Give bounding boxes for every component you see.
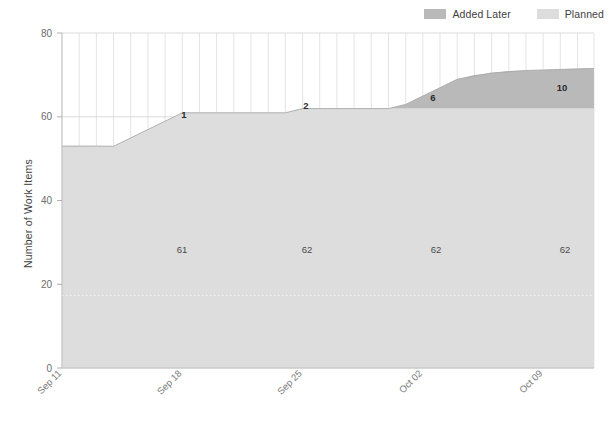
legend-item-planned[interactable]: Planned [537,8,604,20]
legend-item-added-later[interactable]: Added Later [424,8,510,20]
data-label-planned-62-b: 62 [431,244,442,255]
chart-legend: Added Later Planned [424,8,604,20]
legend-swatch-added-later [424,9,446,19]
data-label-planned-62-a: 62 [302,244,313,255]
data-label-added-later-2: 2 [303,100,308,111]
data-label-added-later-10: 10 [557,82,568,93]
chart-canvas: 80 60 40 20 0 Sep 11 Sep 18 Sep 25 Oct 0… [0,0,614,429]
y-tick-label-40: 40 [41,195,53,206]
y-tick-label-80: 80 [41,28,53,39]
legend-swatch-planned [537,9,559,19]
x-tick-label-oct-02: Oct 02 [397,368,425,396]
legend-label-planned: Planned [565,8,604,20]
data-label-planned-61: 61 [177,244,188,255]
x-tick-label-oct-09: Oct 09 [517,368,545,396]
x-tick-label-sep-18: Sep 18 [155,368,184,397]
data-label-added-later-6: 6 [430,92,435,103]
burnup-area-chart: 80 60 40 20 0 Sep 11 Sep 18 Sep 25 Oct 0… [0,0,614,429]
y-axis-title: Number of Work Items [22,159,34,268]
data-label-planned-62-c: 62 [560,244,571,255]
data-label-added-later-1: 1 [181,109,187,120]
series-area-planned [62,109,594,368]
y-tick-marks [57,33,62,368]
y-tick-label-20: 20 [41,279,53,290]
x-tick-label-sep-25: Sep 25 [275,368,304,397]
y-tick-label-60: 60 [41,111,53,122]
legend-label-added-later: Added Later [452,8,510,20]
